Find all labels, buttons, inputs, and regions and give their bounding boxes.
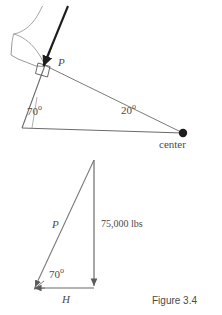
fin-upper-curve	[12, 6, 43, 42]
angle-label-20-center: 20o	[121, 105, 136, 116]
fin-inner-curve	[14, 34, 46, 66]
figure-drawing	[0, 0, 222, 315]
angle-70-degree-symbol: o	[38, 103, 42, 112]
force-triangle-group	[34, 160, 94, 289]
center-point-dot	[179, 129, 187, 137]
force-vector-P	[35, 160, 94, 287]
horizontal-force-label-H: H	[62, 294, 70, 305]
curved-fin-shape	[11, 6, 45, 67]
figure-container: P 70o 20o center P 75,000 lbs 70o H Figu…	[0, 0, 222, 315]
center-point-label: center	[159, 139, 186, 150]
angle-label-70-incline: 70o	[27, 106, 42, 117]
angle-70b-degree-symbol: o	[60, 266, 64, 275]
vertical-force-label: 75,000 lbs	[101, 219, 143, 229]
angle-label-70-triangle: 70o	[49, 269, 64, 280]
angle-20-value: 20	[121, 104, 132, 116]
figure-caption: Figure 3.4	[152, 295, 197, 306]
angle-70b-value: 70	[49, 268, 60, 280]
load-label-P-top: P	[58, 57, 65, 68]
force-label-P-bottom: P	[52, 219, 59, 230]
radius-line-to-center	[44, 65, 183, 133]
top-diagram-group	[11, 6, 187, 137]
horizontal-base-line	[22, 128, 183, 133]
angle-20-degree-symbol: o	[132, 102, 136, 111]
angle-70-value: 70	[27, 105, 38, 117]
